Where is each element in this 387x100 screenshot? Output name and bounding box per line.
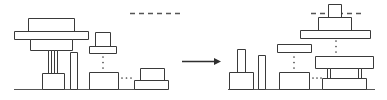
- stepped-stack-horizontal-ellipsis-dot: [121, 77, 123, 79]
- floating-bar-over-block-vertical-ellipsis-dot: [293, 62, 295, 64]
- tall-wide-table-right-leg: [55, 51, 58, 74]
- transformation-arrow-head: [214, 58, 221, 65]
- small-capped-stack-base-block: [90, 73, 119, 90]
- floating-capped-platform-vertical-ellipsis-dot: [335, 51, 337, 53]
- small-capped-stack-vertical-ellipsis-dot: [102, 67, 104, 69]
- stepped-stack-horizontal-ellipsis-dot: [130, 77, 132, 79]
- floating-capped-platform-mid-block: [319, 18, 352, 31]
- double-pillar-base-thin-pillar: [259, 56, 266, 90]
- double-pillar-base-base-block: [230, 73, 254, 90]
- floating-capped-platform-wide-deck: [301, 31, 371, 39]
- diagram-geometry: [14, 5, 375, 90]
- floating-capped-platform-cap-block: [329, 5, 342, 18]
- tall-wide-table-wide-deck: [15, 32, 89, 40]
- small-capped-stack-vertical-ellipsis-dot: [102, 62, 104, 64]
- diagram-canvas: [0, 0, 387, 100]
- floating-bar-over-block-vertical-ellipsis-dot: [293, 56, 295, 58]
- wide-table-top-slab: [316, 57, 374, 69]
- tall-wide-table-top-slab: [29, 19, 75, 32]
- floating-capped-platform-vertical-ellipsis-dot: [335, 40, 337, 42]
- wide-table-right-leg: [359, 69, 362, 79]
- stepped-stack-lower-block: [135, 81, 169, 90]
- wide-table-horizontal-ellipsis-dot: [320, 77, 322, 79]
- small-capped-stack-cap-block: [96, 33, 111, 47]
- floating-bar-over-block-base-block: [280, 73, 310, 90]
- stepped-stack-horizontal-ellipsis-dot: [126, 77, 128, 79]
- floating-capped-platform-vertical-ellipsis-dot: [335, 46, 337, 48]
- tall-wide-table-under-slab: [31, 40, 73, 51]
- floating-bar-over-block-vertical-ellipsis-dot: [293, 67, 295, 69]
- wide-table-horizontal-ellipsis-dot: [312, 77, 314, 79]
- wide-table-left-leg: [328, 69, 331, 79]
- wide-table-horizontal-ellipsis-dot: [316, 77, 318, 79]
- small-capped-stack-cap-slab: [90, 47, 117, 54]
- stepped-stack-upper-block: [141, 69, 165, 81]
- tall-wide-table-left-leg: [49, 51, 52, 74]
- floating-bar-over-block-floating-bar: [278, 45, 312, 53]
- small-capped-stack-vertical-ellipsis-dot: [102, 56, 104, 58]
- wide-table-base-block: [323, 79, 367, 90]
- transformation-diagram: [0, 0, 387, 100]
- tall-wide-table-base-block: [43, 74, 65, 90]
- thin-pillar-pillar: [71, 53, 78, 90]
